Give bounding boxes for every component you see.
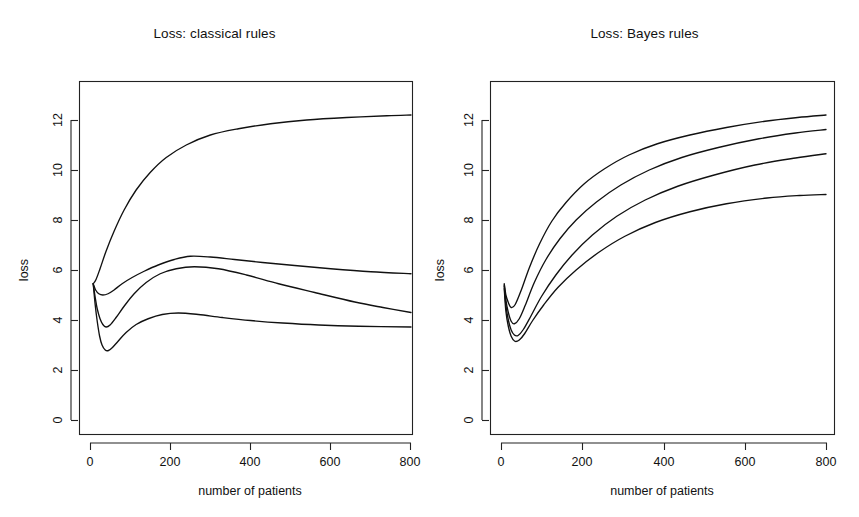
y-axis-title-classical: loss bbox=[17, 259, 31, 281]
curve-classical-2 bbox=[93, 256, 411, 295]
x-axis-classical: 0 200 400 600 800 bbox=[87, 443, 421, 469]
x-tick-label-200: 200 bbox=[160, 455, 181, 469]
y-tick-label-4: 4 bbox=[51, 316, 65, 323]
x-axis-bayes: 0 200 400 600 800 bbox=[498, 443, 837, 469]
x-tick-label-0: 0 bbox=[498, 455, 505, 469]
y-tick-label-2: 2 bbox=[462, 366, 476, 373]
x-axis-title-classical: number of patients bbox=[198, 484, 302, 498]
y-tick-label-12: 12 bbox=[51, 113, 65, 127]
y-tick-label-0: 0 bbox=[51, 416, 65, 423]
y-tick-label-10: 10 bbox=[51, 163, 65, 177]
curve-classical-1 bbox=[93, 115, 411, 284]
y-axis-title-bayes: loss bbox=[433, 259, 447, 281]
y-tick-label-6: 6 bbox=[51, 266, 65, 273]
plot-area-bayes: 0 200 400 600 800 0 2 4 6 8 10 bbox=[430, 0, 859, 517]
curve-classical-3 bbox=[93, 267, 411, 327]
curve-classical-4 bbox=[93, 284, 411, 351]
panel-classical-rules: Loss: classical rules 0 200 400 600 800 bbox=[0, 0, 429, 517]
y-axis-bayes: 0 2 4 6 8 10 12 bbox=[462, 113, 489, 423]
x-tick-label-0: 0 bbox=[87, 455, 94, 469]
y-tick-label-6: 6 bbox=[462, 266, 476, 273]
x-tick-label-800: 800 bbox=[816, 455, 837, 469]
y-tick-label-8: 8 bbox=[51, 216, 65, 223]
x-tick-label-400: 400 bbox=[240, 455, 261, 469]
x-tick-label-200: 200 bbox=[572, 455, 593, 469]
y-tick-label-4: 4 bbox=[462, 316, 476, 323]
x-tick-label-800: 800 bbox=[400, 455, 421, 469]
panel-bayes-rules: Loss: Bayes rules 0 200 400 600 800 bbox=[430, 0, 859, 517]
plot-frame-classical bbox=[80, 82, 413, 435]
y-tick-label-12: 12 bbox=[462, 113, 476, 127]
curves-classical bbox=[93, 115, 411, 351]
curve-bayes-4 bbox=[504, 195, 826, 342]
x-tick-label-600: 600 bbox=[735, 455, 756, 469]
x-tick-label-400: 400 bbox=[654, 455, 675, 469]
x-axis-title-bayes: number of patients bbox=[610, 484, 714, 498]
y-tick-label-2: 2 bbox=[51, 366, 65, 373]
y-axis-classical: 0 2 4 6 8 10 12 bbox=[51, 113, 78, 423]
curve-bayes-3 bbox=[504, 154, 826, 336]
y-tick-label-0: 0 bbox=[462, 416, 476, 423]
x-tick-label-600: 600 bbox=[320, 455, 341, 469]
curves-bayes bbox=[504, 115, 826, 341]
y-tick-label-8: 8 bbox=[462, 216, 476, 223]
figure-root: Loss: classical rules 0 200 400 600 800 bbox=[0, 0, 859, 517]
y-tick-label-10: 10 bbox=[462, 163, 476, 177]
plot-area-classical: 0 200 400 600 800 0 2 4 6 8 10 bbox=[0, 0, 429, 517]
